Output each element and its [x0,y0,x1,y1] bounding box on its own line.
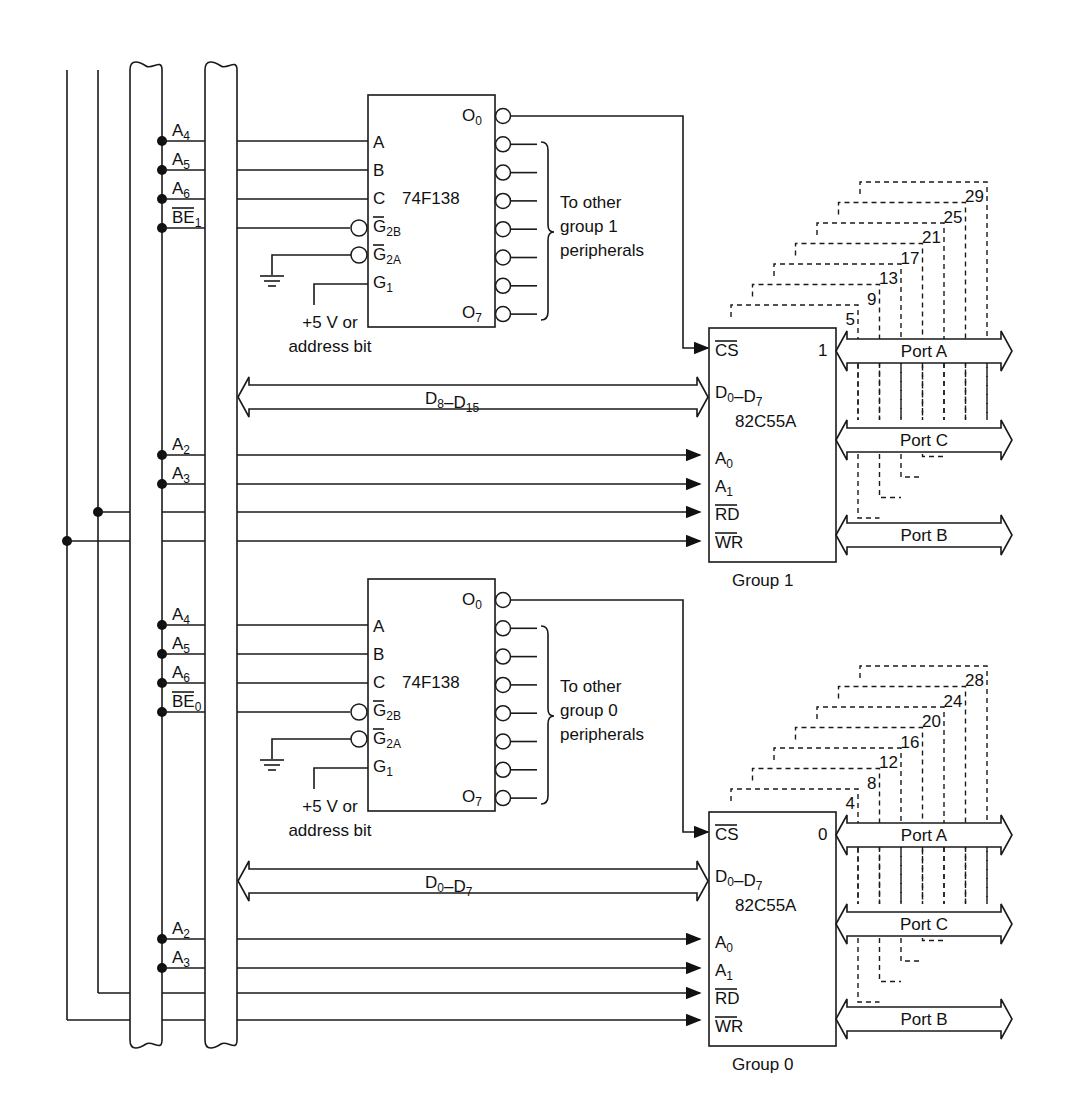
pin-label: A3 [172,948,190,970]
pin-label: CS [715,341,739,360]
ppi-stack-number: 17 [901,249,920,268]
peripheral-group1: A4A5A6BE1+5 V oraddress bitABCG2BG2AG174… [157,95,1012,590]
pin-label: D0–D7 [425,873,473,899]
pin-label: C [373,189,385,208]
pin-label: C [373,673,385,692]
pin-label: BE0 [172,692,202,714]
circuit-schematic: A4A5A6BE1+5 V oraddress bitABCG2BG2AG174… [0,0,1070,1116]
port-label: Port B [900,1010,947,1029]
ppi-stack-number: 8 [867,774,876,793]
ppi-stack-number: 4 [846,794,855,813]
group-label: Group 1 [732,571,793,590]
decoder-74f138: ABCG2BG2AG174F138O0O7 [368,579,537,811]
data-bus-arrow [238,861,708,901]
ppi-stack-number: 24 [944,692,963,711]
decoder-74f138: ABCG2BG2AG174F138O0O7 [368,95,537,327]
ppi-stack-number: 21 [922,228,941,247]
data-bus-cable [205,62,237,1048]
pin-label: A5 [172,150,190,172]
brace-note: group 1 [560,217,618,236]
brace-note: To other [560,677,622,696]
decoder-name: 74F138 [402,673,460,692]
brace-note: peripherals [560,241,644,260]
ppi-stack-number: 25 [944,208,963,227]
g1-note: +5 V or [302,797,358,816]
ppi-name: 82C55A [735,412,797,431]
ppi-index: 0 [818,825,827,844]
port-label: Port A [901,826,948,845]
pin-label: A4 [172,121,190,143]
pin-label: A5 [172,634,190,656]
ppi-stack-number: 5 [846,310,855,329]
pin-label: WR [715,1017,743,1036]
pin-label: RD [715,505,740,524]
pin-label: A6 [172,663,190,685]
ppi-stack-number: 13 [879,269,898,288]
ppi-index: 1 [818,341,827,360]
pin-label: A4 [172,605,190,627]
g1-note: address bit [288,821,371,840]
pin-label: B [373,161,384,180]
g1-note: +5 V or [302,313,358,332]
pin-label: CS [715,825,739,844]
group-label: Group 0 [732,1055,793,1074]
ppi-stack-number: 20 [922,712,941,731]
pin-label: A2 [172,919,190,941]
pin-label: A6 [172,179,190,201]
brace-note: To other [560,193,622,212]
pin-label: A [373,617,385,636]
ppi-stack-number: 16 [901,733,920,752]
g1-note: address bit [288,337,371,356]
pin-label: B [373,645,384,664]
port-label: Port C [900,431,948,450]
diagram-canvas: A4A5A6BE1+5 V oraddress bitABCG2BG2AG174… [0,0,1070,1116]
peripheral-group0: A4A5A6BE0+5 V oraddress bitABCG2BG2AG174… [157,579,1012,1074]
port-label: Port A [901,342,948,361]
ppi-stack-number: 28 [965,671,984,690]
brace-note: group 0 [560,701,618,720]
ppi-82c55a: CSD0–D7A0A1RDWR82C55A1Group 1 [709,328,836,590]
address-bus-cable [130,62,162,1048]
ppi-name: 82C55A [735,896,797,915]
pin-label: A2 [172,435,190,457]
decoder-name: 74F138 [402,189,460,208]
pin-label: WR [715,533,743,552]
pin-label: RD [715,989,740,1008]
ppi-stack-number: 29 [965,187,984,206]
ppi-stack-number: 9 [867,290,876,309]
pin-label: A3 [172,464,190,486]
pin-label: A [373,133,385,152]
port-label: Port B [900,526,947,545]
brace-note: peripherals [560,725,644,744]
ppi-82c55a: CSD0–D7A0A1RDWR82C55A0Group 0 [709,812,836,1074]
ppi-stack-number: 12 [879,753,898,772]
port-label: Port C [900,915,948,934]
pin-label: BE1 [172,208,202,230]
